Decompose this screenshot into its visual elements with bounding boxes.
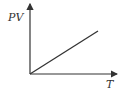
y-axis-label: PV bbox=[7, 11, 24, 24]
pv-t-diagram: PV T bbox=[0, 0, 124, 94]
series-line-0 bbox=[30, 31, 98, 74]
x-axis-label: T bbox=[106, 78, 115, 91]
